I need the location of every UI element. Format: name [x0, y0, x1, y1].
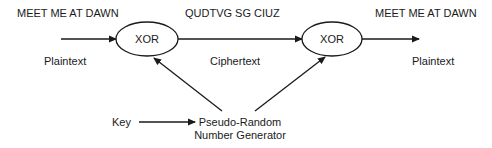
- input-message: MEET ME AT DAWN: [17, 7, 119, 20]
- xor-encrypt-label: XOR: [127, 33, 167, 46]
- input-plaintext-label: Plaintext: [44, 55, 86, 68]
- prng-label-line2: Number Generator: [190, 129, 290, 142]
- prng-label-line1: Pseudo-Random: [190, 116, 290, 129]
- prng-to-decrypt-arrow: [255, 57, 325, 111]
- xor-decrypt-label: XOR: [312, 33, 352, 46]
- cipher-message: QUDTVG SG CIUZ: [185, 7, 280, 20]
- ciphertext-label: Ciphertext: [210, 55, 260, 68]
- output-plaintext-label: Plaintext: [412, 55, 454, 68]
- prng-node: Pseudo-Random Number Generator: [190, 116, 290, 142]
- output-message: MEET ME AT DAWN: [375, 7, 477, 20]
- key-label: Key: [112, 116, 131, 129]
